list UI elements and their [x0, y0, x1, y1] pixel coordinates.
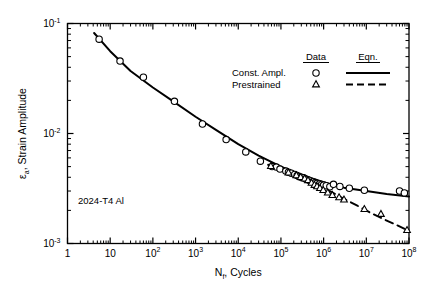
data-point-const-ampl	[361, 187, 367, 193]
data-point-const-ampl	[337, 183, 343, 189]
legend-header-eqn: Eqn.	[358, 51, 378, 62]
legend-label-const-ampl: Const. Ampl.	[232, 67, 286, 78]
x-tick-label: 10	[105, 248, 117, 259]
data-point-const-ampl	[243, 149, 249, 155]
x-axis-label: Nf, Cycles	[215, 266, 262, 280]
data-point-const-ampl	[223, 136, 229, 142]
data-point-const-ampl	[346, 185, 352, 191]
data-point-const-ampl	[117, 58, 123, 64]
legend-label-prestrained: Prestrained	[232, 79, 281, 90]
annotation-text: 2024-T4 Al	[78, 195, 124, 206]
legend-header-data: Data	[306, 51, 327, 62]
y-axis-title-text: εa, Strain Amplitude	[16, 88, 30, 179]
x-axis-title-text: Nf, Cycles	[215, 266, 262, 280]
legend-marker-circle-icon	[313, 70, 319, 76]
data-point-const-ampl	[330, 181, 336, 187]
data-point-const-ampl	[96, 36, 102, 42]
data-point-const-ampl	[199, 121, 205, 127]
x-tick-label: 1	[65, 248, 71, 259]
material-annotation: 2024-T4 Al	[78, 195, 124, 206]
data-point-const-ampl	[171, 98, 177, 104]
figure-container: 110102103104105106107108 10-110-210-3 Nf…	[0, 0, 440, 288]
strain-life-chart: 110102103104105106107108 10-110-210-3 Nf…	[0, 0, 440, 288]
y-axis-label: εa, Strain Amplitude	[16, 88, 30, 179]
data-point-const-ampl	[401, 190, 407, 196]
chart-background	[0, 0, 440, 288]
data-point-const-ampl	[257, 158, 263, 164]
data-point-const-ampl	[140, 74, 146, 80]
